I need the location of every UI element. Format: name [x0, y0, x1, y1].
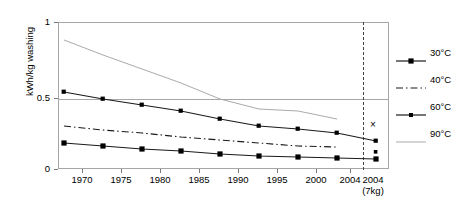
x-tick-label-2004-7kg: 2004 (7kg) — [350, 174, 396, 196]
legend-item-40c[interactable]: 40°C — [396, 69, 463, 96]
y-tickmark-0 — [54, 169, 58, 170]
plot-area — [58, 22, 389, 169]
legend-label-40c: 40°C — [430, 74, 451, 85]
x-tickmark-1985 — [199, 169, 200, 173]
legend-label-90c: 90°C — [430, 128, 451, 139]
legend-swatch-30c-icon — [396, 56, 426, 66]
y-tickmark-0.5 — [54, 98, 58, 99]
x-tick-label-2004-7kg-year: 2004 — [362, 174, 383, 185]
legend-swatch-90c-icon — [396, 137, 426, 147]
legend-label-30c: 30°C — [430, 47, 451, 58]
x-tick-label-2004-7kg-sub: (7kg) — [350, 185, 396, 196]
y-tick-label-0: 0 — [16, 164, 50, 173]
x-tickmark-1980 — [160, 169, 161, 173]
gridline-0.5 — [59, 99, 388, 100]
legend-item-60c[interactable]: 60°C — [396, 96, 463, 123]
x-tickmark-1990 — [238, 169, 239, 173]
chart-legend: 30°C 40°C 60°C — [396, 42, 463, 150]
legend-label-60c: 60°C — [430, 101, 451, 112]
vertical-divider-line — [363, 22, 364, 170]
x-tickmark-1995 — [277, 169, 278, 173]
x-tickmark-2004 — [350, 169, 351, 173]
legend-item-30c[interactable]: 30°C — [396, 42, 463, 69]
x-tickmark-1975 — [121, 169, 122, 173]
x-tickmark-1970 — [82, 169, 83, 173]
y-tickmark-1 — [54, 22, 58, 23]
legend-item-90c[interactable]: 90°C — [396, 123, 463, 150]
legend-swatch-40c-icon — [396, 83, 426, 93]
legend-sample-40c — [396, 79, 426, 89]
legend-sample-90c — [396, 133, 426, 143]
legend-sample-60c — [396, 106, 426, 116]
x-tickmark-2000 — [316, 169, 317, 173]
legend-swatch-60c-icon — [396, 110, 426, 120]
chart-container: 1 0.5 0 kWh/kg washing 1970 1975 1980 19… — [0, 0, 463, 214]
y-axis-label: kWh/kg washing — [24, 7, 35, 117]
legend-sample-30c — [396, 52, 426, 62]
cross-marker-annotation: × — [370, 120, 376, 130]
